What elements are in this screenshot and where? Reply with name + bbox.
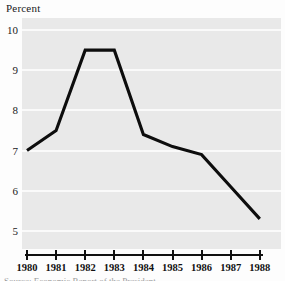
y-axis-title: Percent (6, 2, 40, 14)
y-axis-tick-label: 7 (0, 145, 18, 157)
x-axis-tick-mark (142, 250, 144, 260)
x-axis-tick-mark (113, 250, 115, 260)
chart-figure: Percent 1098765 198019811982198319841985… (0, 0, 285, 281)
x-axis-tick-label: 1986 (191, 262, 212, 273)
y-axis-tick-label: 8 (0, 104, 18, 116)
y-axis-tick-label: 9 (0, 64, 18, 76)
x-axis-tick-label: 1983 (104, 262, 125, 273)
x-axis-tick-mark (172, 250, 174, 260)
y-axis-tick-label: 5 (0, 225, 18, 237)
x-axis-tick-mark (259, 250, 261, 260)
x-axis-tick-label: 1981 (46, 262, 67, 273)
x-axis-tick-label: 1988 (249, 262, 270, 273)
x-axis-tick-label: 1985 (162, 262, 183, 273)
x-axis-tick-label: 1984 (133, 262, 154, 273)
source-caption: Source: Economic Report of the President (4, 276, 281, 281)
x-axis-tick-mark (201, 250, 203, 260)
x-axis-tick-mark (84, 250, 86, 260)
y-axis-tick-label: 10 (0, 24, 18, 36)
x-axis-tick-label: 1987 (220, 262, 241, 273)
x-axis-tick-label: 1980 (17, 262, 38, 273)
x-axis-tick-mark (26, 250, 28, 260)
x-axis-tick-label: 1982 (75, 262, 96, 273)
x-axis-tick-mark (230, 250, 232, 260)
y-axis-tick-label: 6 (0, 185, 18, 197)
x-axis-tick-mark (55, 250, 57, 260)
data-series-line (22, 18, 281, 249)
